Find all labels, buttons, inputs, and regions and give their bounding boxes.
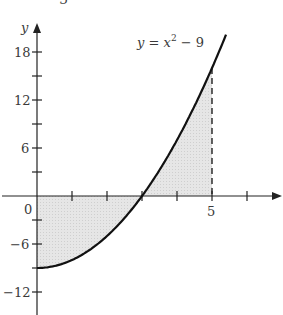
equation-label: y = x2 − 9 — [136, 33, 204, 50]
y-tick-label-12: 12 — [14, 93, 31, 108]
y-tick-label-18: 18 — [14, 45, 31, 60]
shaded-region — [37, 68, 212, 268]
origin-label: 0 — [24, 202, 32, 217]
y-axis-label: y — [20, 20, 29, 35]
top-fragment: 3 — [60, 0, 68, 7]
y-tick-label-neg6: −6 — [10, 237, 29, 252]
y-tick-label-6: 6 — [21, 141, 29, 156]
y-axis-arrow-icon — [33, 23, 41, 33]
y-tick-label-neg12: −12 — [3, 285, 30, 300]
x-tick-label-5: 5 — [207, 204, 215, 219]
graph: 3 y 0 5 18 12 6 −6 −12 y = x2 − 9 — [0, 0, 283, 315]
x-axis-arrow-icon — [272, 192, 282, 200]
